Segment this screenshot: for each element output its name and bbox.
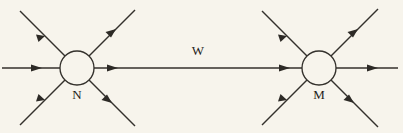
arrowhead-n-in-left <box>31 65 42 72</box>
arrowhead-m-out-right <box>367 65 378 72</box>
edge-m-in-upper-left <box>262 11 307 56</box>
arrowhead-n-in-upper-left <box>36 35 45 43</box>
arrowhead-m-out-upper-right <box>348 29 359 38</box>
propagator-label-w: W <box>192 43 205 58</box>
vertex-label-n: N <box>72 87 82 102</box>
arrowhead-m-in-upper-left <box>278 35 287 43</box>
vertex-label-m: M <box>313 87 325 102</box>
vertex-circle-n <box>60 51 94 85</box>
edge-m-out-lower-right <box>331 80 378 127</box>
vertex-diagram: N M W <box>0 0 403 133</box>
arrowhead-w-near-n <box>107 65 118 72</box>
arrowhead-w-near-m <box>279 65 290 72</box>
edge-n-in-upper-left <box>20 11 65 56</box>
edge-n-in-lower-left <box>20 80 65 125</box>
arrowhead-n-out-upper-right <box>106 29 117 38</box>
arrowhead-m-out-lower-right <box>344 95 355 104</box>
vertex-circle-m <box>302 51 336 85</box>
arrowhead-m-in-lower-left <box>278 94 287 102</box>
arrowhead-n-out-lower-right <box>102 95 113 104</box>
arrowhead-n-in-lower-left <box>36 94 45 102</box>
edge-m-in-lower-left <box>262 80 307 125</box>
diagram-canvas: N M W <box>0 0 403 133</box>
